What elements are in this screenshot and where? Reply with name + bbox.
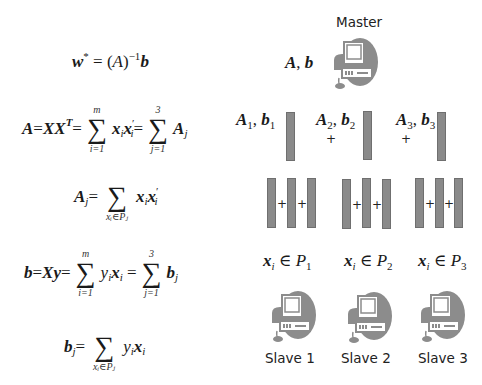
plus-sign: +: [326, 132, 336, 146]
subscript: i: [142, 345, 145, 357]
plus-sign: +: [297, 197, 307, 211]
partial-3-bar: [437, 112, 446, 161]
XX-symbol: XX: [43, 119, 66, 139]
partial-1-label: A1, b1: [236, 110, 275, 130]
subscript: j: [85, 195, 88, 207]
b-symbol: b: [64, 337, 73, 357]
x-symbol: x: [112, 119, 121, 139]
equals: =: [88, 187, 98, 207]
formula-b-definition: b = Xy = m∑i=1 yixi = 3∑j=1 bj: [24, 248, 178, 298]
plus-sign: +: [372, 198, 382, 212]
slave-2-computer-icon: [344, 290, 394, 344]
vector-bar: [307, 178, 316, 228]
A-symbol: A: [285, 53, 296, 72]
A-symbol: A: [173, 119, 184, 139]
b-symbol: b: [24, 263, 33, 283]
Xy-symbol: Xy: [42, 263, 61, 283]
partial-2-label: A2, b2: [316, 110, 355, 130]
b-symbol: b: [341, 110, 350, 129]
subscript: 3: [407, 119, 413, 131]
element-of: ∈: [356, 251, 377, 270]
subscript: i: [272, 260, 275, 272]
sum-over-partition: ∑xᵢ∈Pⱼ: [87, 322, 121, 372]
subscript: j: [184, 127, 187, 139]
subscript: 2: [327, 119, 333, 131]
b-symbol: b: [140, 52, 149, 71]
subscript: 2: [350, 119, 356, 131]
sum-i-to-m: m∑i=1: [73, 248, 99, 298]
b-symbol: b: [305, 53, 314, 72]
sum-lower: i=1: [73, 287, 99, 298]
sigma-icon: ∑: [87, 333, 121, 361]
sigma-icon: ∑: [84, 115, 110, 143]
element-of: ∈: [275, 251, 296, 270]
sum-lower: xᵢ∈Pⱼ: [100, 211, 134, 222]
x-symbol: x: [344, 251, 353, 270]
equals: =: [127, 263, 137, 283]
equals: =: [72, 119, 82, 139]
equals-paren: = (: [89, 52, 113, 71]
sum-lower: xᵢ∈Pⱼ: [87, 361, 121, 372]
subscript: i: [131, 345, 134, 357]
subscript: i: [108, 271, 111, 283]
slave-1-label: Slave 1: [265, 350, 315, 366]
subscript: i: [120, 271, 123, 283]
equals: =: [133, 119, 143, 139]
slave-1-computer-icon: [268, 289, 318, 343]
sum-lower: j=1: [145, 143, 171, 154]
w-symbol: w: [72, 52, 83, 71]
sum-j-to-3: 3∑j=1: [145, 104, 171, 154]
vector-bar: [342, 179, 351, 229]
subscript: 3: [461, 260, 467, 272]
star-superscript: *: [83, 50, 89, 62]
partition-3-label: xi ∈ P3: [418, 250, 467, 271]
slave-2-label: Slave 2: [341, 350, 391, 366]
sigma-icon: ∑: [100, 183, 134, 211]
subscript: 2: [387, 260, 393, 272]
sigma-icon: ∑: [145, 115, 171, 143]
A-symbol: A: [236, 110, 247, 129]
subscript: i: [154, 195, 157, 207]
vector-bar: [382, 179, 391, 229]
vector-bar: [362, 178, 371, 228]
y-symbol: y: [123, 337, 131, 357]
b-symbol: b: [261, 110, 270, 129]
sum-lower: j=1: [139, 287, 165, 298]
subscript: j: [73, 345, 76, 357]
A-symbol: A: [22, 119, 33, 139]
plus-sign: +: [401, 132, 411, 146]
partial-1-bar: [286, 112, 295, 161]
sum-j-to-3: 3∑j=1: [139, 248, 165, 298]
separator: ,: [296, 53, 305, 72]
equals: =: [33, 263, 43, 283]
P-symbol: P: [296, 251, 306, 270]
b-symbol: b: [421, 110, 430, 129]
x-symbol: x: [111, 263, 120, 283]
vector-bar: [415, 178, 424, 228]
subscript: j: [175, 271, 178, 283]
vector-bar: [287, 178, 296, 228]
slave-3-label: Slave 3: [418, 350, 468, 366]
plus-sign: +: [277, 197, 287, 211]
transpose-superscript: T: [66, 116, 73, 128]
vector-bar: [267, 178, 276, 228]
sum-over-partition: ∑xᵢ∈Pⱼ: [100, 172, 134, 222]
master-label: Master: [336, 14, 382, 30]
slave-3-computer-icon: [417, 289, 467, 343]
P-symbol: P: [451, 251, 461, 270]
partition-1-label: xi ∈ P1: [263, 250, 312, 271]
subscript: i: [120, 127, 123, 139]
subscript: i: [427, 260, 430, 272]
subscript: i: [130, 127, 133, 139]
x-symbol: x: [136, 187, 145, 207]
sigma-icon: ∑: [139, 259, 165, 287]
vector-bar: [435, 178, 444, 228]
plus-sign: +: [444, 197, 454, 211]
sigma-icon: ∑: [73, 259, 99, 287]
P-symbol: P: [377, 251, 387, 270]
subscript: i: [353, 260, 356, 272]
subscript: i: [145, 195, 148, 207]
formula-bj-definition: bj = ∑xᵢ∈Pⱼ yixi: [64, 322, 145, 372]
formula-A-definition: A = XXT = m∑i=1 xix′i = 3∑j=1 Aj: [22, 104, 187, 154]
master-computer-icon: [330, 36, 380, 90]
